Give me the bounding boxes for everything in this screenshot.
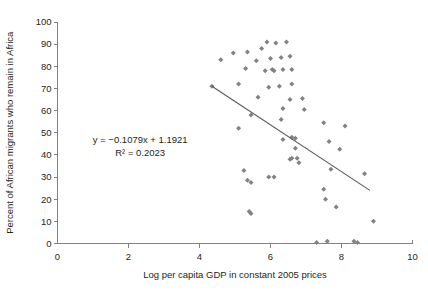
data-point	[264, 39, 269, 44]
y-tick-label: 0	[46, 238, 51, 249]
data-point	[280, 137, 285, 142]
data-point	[302, 107, 307, 112]
y-tick-label: 100	[36, 16, 52, 27]
y-tick-label: 70	[41, 83, 52, 94]
data-point	[288, 54, 293, 59]
data-point	[245, 49, 250, 54]
data-point	[236, 82, 241, 87]
trendline	[212, 86, 370, 190]
data-point	[259, 46, 264, 51]
y-tick-label: 30	[41, 171, 52, 182]
data-point-series	[209, 39, 376, 244]
data-point	[343, 124, 348, 129]
data-point	[231, 51, 236, 56]
y-axis: 0102030405060708090100	[36, 16, 58, 249]
scatter-plot-svg: 0102030405060708090100 0246810 y = −0.10…	[0, 0, 428, 296]
y-tick-label: 20	[41, 194, 52, 205]
data-point	[323, 197, 328, 202]
data-point	[284, 39, 289, 44]
data-point	[293, 146, 298, 151]
data-point	[266, 85, 271, 90]
data-point	[218, 57, 223, 62]
y-tick-label: 80	[41, 61, 52, 72]
y-axis-ticks	[54, 22, 58, 244]
r-squared-label: R² = 0.2023	[115, 147, 165, 158]
y-tick-label: 50	[41, 127, 52, 138]
data-point	[321, 120, 326, 125]
data-point	[277, 84, 282, 89]
data-point	[321, 187, 326, 192]
data-point	[288, 97, 293, 102]
data-point	[300, 96, 305, 101]
x-axis-tick-labels: 0246810	[55, 251, 418, 262]
y-tick-label: 60	[41, 105, 52, 116]
x-axis: 0246810	[55, 240, 418, 262]
data-point	[362, 171, 367, 176]
data-point	[327, 139, 332, 144]
data-point	[243, 66, 248, 71]
data-point	[295, 156, 300, 161]
data-point	[289, 67, 294, 72]
x-tick-label: 4	[197, 251, 202, 262]
x-tick-label: 10	[407, 251, 418, 262]
chart-container: 0102030405060708090100 0246810 y = −0.10…	[0, 0, 428, 296]
data-point	[328, 167, 333, 172]
x-tick-label: 2	[126, 251, 131, 262]
data-point	[280, 106, 285, 111]
x-tick-label: 8	[339, 251, 344, 262]
data-point	[337, 147, 342, 152]
y-axis-tick-labels: 0102030405060708090100	[36, 16, 52, 249]
data-point	[256, 95, 261, 100]
data-point	[334, 204, 339, 209]
data-point	[263, 68, 268, 73]
x-axis-title: Log per capita GDP in constant 2005 pric…	[143, 269, 327, 280]
data-point	[266, 175, 271, 180]
x-tick-label: 0	[55, 251, 60, 262]
data-point	[279, 55, 284, 60]
y-tick-label: 40	[41, 149, 52, 160]
data-point	[236, 126, 241, 131]
y-tick-label: 90	[41, 38, 52, 49]
data-point	[241, 168, 246, 173]
regression-equation-label: y = −0.1079x + 1.1921	[93, 134, 188, 145]
data-point	[273, 41, 278, 46]
data-point	[314, 240, 319, 245]
data-point	[289, 82, 294, 87]
y-axis-title: Percent of African migrants who remain i…	[4, 31, 15, 234]
data-point	[296, 160, 301, 165]
data-point	[371, 219, 376, 224]
x-tick-label: 6	[268, 251, 273, 262]
data-point	[279, 117, 284, 122]
data-point	[272, 175, 277, 180]
data-point	[268, 56, 273, 61]
data-point	[280, 67, 285, 72]
y-tick-label: 10	[41, 216, 52, 227]
data-point	[254, 58, 259, 63]
